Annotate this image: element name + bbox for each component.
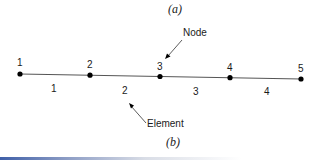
node-dot-5	[298, 76, 303, 81]
element-arrowhead-icon	[129, 103, 134, 109]
mesh-diagram	[0, 0, 322, 160]
element-leader	[131, 106, 146, 123]
node-dot-4	[227, 75, 232, 80]
node-arrow	[168, 40, 182, 56]
node-dot-1	[17, 71, 22, 76]
caption-b: (b)	[166, 136, 180, 148]
caption-a: (a)	[168, 3, 182, 15]
node-label-2: 2	[87, 60, 93, 70]
element-label-2: 2	[122, 86, 128, 96]
accent-bar	[0, 157, 322, 160]
node-dot-2	[87, 73, 92, 78]
element-label-4: 4	[264, 87, 270, 97]
node-label-4: 4	[227, 63, 233, 73]
node-label-1: 1	[17, 58, 23, 68]
element-annotation: Element	[147, 119, 184, 129]
node-label-5: 5	[298, 64, 304, 74]
element-label-1: 1	[51, 84, 57, 94]
node-dot-3	[157, 74, 162, 79]
node-label-3: 3	[157, 62, 163, 72]
element-label-3: 3	[193, 87, 199, 97]
node-annotation: Node	[183, 28, 207, 38]
